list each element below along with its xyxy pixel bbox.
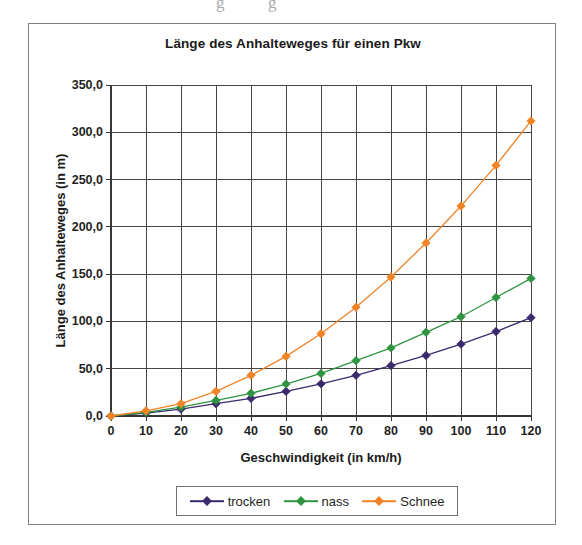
x-tick	[356, 416, 357, 421]
x-tick	[426, 416, 427, 421]
chart-title: Länge des Anhalteweges für einen Pkw	[29, 36, 557, 51]
x-tick	[531, 416, 532, 421]
data-point-marker	[457, 340, 465, 348]
data-point-marker	[247, 389, 255, 397]
scan-artifacts: gg	[0, 0, 582, 22]
legend-entry-schnee: Schnee	[362, 494, 444, 509]
legend-label: nass	[322, 494, 349, 509]
x-tick-label: 90	[419, 424, 433, 438]
y-tick-label: 200,0	[72, 220, 103, 234]
chart-figure-frame: Länge des Anhalteweges für einen Pkw Län…	[28, 23, 556, 525]
x-tick-label: 60	[314, 424, 328, 438]
x-tick-label: 0	[108, 424, 115, 438]
x-tick-label: 10	[139, 424, 153, 438]
data-point-marker	[492, 293, 500, 301]
data-point-marker	[422, 351, 430, 359]
data-point-marker	[492, 327, 500, 335]
data-point-marker	[247, 371, 255, 379]
data-point-marker	[527, 313, 535, 321]
data-point-marker	[317, 380, 325, 388]
chart-legend: trockennassSchnee	[176, 486, 458, 516]
x-tick	[216, 416, 217, 421]
legend-label: Schnee	[400, 494, 444, 509]
x-tick-label: 40	[244, 424, 258, 438]
x-axis-title: Geschwindigkeit (in km/h)	[111, 450, 531, 465]
series-nass	[107, 274, 535, 420]
data-point-marker	[107, 412, 115, 420]
x-tick-label: 30	[209, 424, 223, 438]
x-tick	[286, 416, 287, 421]
x-tick-label: 80	[384, 424, 398, 438]
scan-artifact-glyph: g	[268, 0, 277, 11]
x-tick	[321, 416, 322, 421]
legend-swatch-icon	[190, 495, 224, 507]
data-point-marker	[387, 344, 395, 352]
legend-swatch-icon	[284, 495, 318, 507]
data-point-marker	[282, 380, 290, 388]
x-tick-label: 100	[451, 424, 472, 438]
data-point-marker	[352, 356, 360, 364]
series-line	[111, 278, 531, 416]
x-tick	[496, 416, 497, 421]
y-tick-label: 0,0	[86, 409, 103, 423]
x-tick	[461, 416, 462, 421]
x-tick-label: 50	[279, 424, 293, 438]
y-axis-title: Länge des Anhalteweges (in m)	[51, 85, 71, 416]
x-tick-label: 70	[349, 424, 363, 438]
y-tick-label: 250,0	[72, 173, 103, 187]
x-tick-label: 110	[486, 424, 506, 438]
data-point-marker	[422, 328, 430, 336]
y-tick-label: 100,0	[72, 314, 103, 328]
scan-artifact-glyph: g	[216, 0, 225, 11]
data-point-marker	[457, 313, 465, 321]
x-tick	[391, 416, 392, 421]
x-tick	[181, 416, 182, 421]
plot-area: 0,050,0100,0150,0200,0250,0300,0350,0 01…	[111, 85, 531, 416]
y-axis-title-text: Länge des Anhalteweges (in m)	[54, 154, 69, 348]
legend-label: trocken	[228, 494, 271, 509]
x-tick	[251, 416, 252, 421]
x-tick-label: 20	[174, 424, 188, 438]
data-point-marker	[527, 274, 535, 282]
legend-entry-nass: nass	[284, 494, 349, 509]
data-point-marker	[212, 387, 220, 395]
data-point-marker	[282, 352, 290, 360]
data-point-marker	[387, 361, 395, 369]
series-plot	[111, 85, 531, 416]
y-tick-label: 150,0	[72, 267, 103, 281]
data-point-marker	[317, 369, 325, 377]
legend-swatch-icon	[362, 495, 396, 507]
y-tick-label: 300,0	[72, 125, 103, 139]
y-tick-label: 50,0	[79, 362, 103, 376]
x-tick-label: 120	[521, 424, 542, 438]
data-point-marker	[352, 371, 360, 379]
legend-entry-trocken: trocken	[190, 494, 271, 509]
y-tick-label: 350,0	[72, 78, 103, 92]
